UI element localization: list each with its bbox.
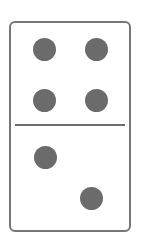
pip-bottom-upper-left xyxy=(34,146,57,169)
domino-divider xyxy=(15,124,125,126)
pip-top-left xyxy=(33,38,56,61)
pip-bottom-lower-right xyxy=(80,187,103,210)
domino-tile xyxy=(9,21,131,232)
pip-top-right xyxy=(85,38,108,61)
pip-mid-right xyxy=(85,89,108,112)
pip-mid-left xyxy=(33,89,56,112)
